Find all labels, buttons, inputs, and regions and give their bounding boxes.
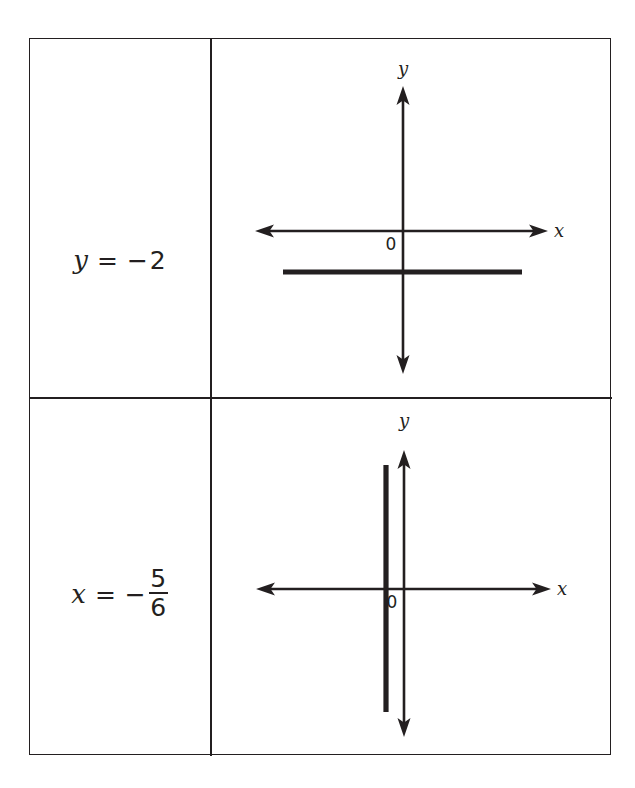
equation-equals-row-1: =: [97, 248, 118, 273]
y-axis-row-2: [398, 450, 411, 737]
y-axis-label-row-2: y: [398, 410, 410, 431]
y-axis-label-row-1: y: [397, 58, 409, 79]
coordinate-plane-row-1: y x 0: [210, 38, 611, 396]
coordinate-plane-row-2: y x 0: [210, 397, 611, 755]
graph-cell-row-1: y x 0: [210, 38, 611, 396]
x-axis-label-row-2: x: [557, 578, 567, 599]
x-axis-row-1: [255, 225, 548, 238]
equation-cell-row-2: x = − 5 6: [29, 397, 210, 755]
fraction-row-2: 5 6: [149, 566, 168, 620]
equation-equals-row-2: =: [95, 582, 116, 607]
equation-row-1: y = − 2: [29, 247, 210, 273]
equation-minus-row-2: −: [125, 582, 146, 607]
equation-variable-row-1: y: [73, 247, 88, 273]
equation-row-2: x = − 5 6: [29, 567, 210, 621]
graph-cell-row-2: y x 0: [210, 397, 611, 755]
origin-label-row-1: 0: [386, 234, 397, 254]
fraction-numerator-row-2: 5: [149, 566, 167, 592]
equation-value-row-1: 2: [150, 248, 166, 273]
fraction-denominator-row-2: 6: [149, 594, 167, 620]
equation-variable-row-2: x: [71, 581, 86, 607]
equation-minus-row-1: −: [127, 248, 148, 273]
x-axis-label-row-1: x: [554, 220, 564, 241]
equation-cell-row-1: y = − 2: [29, 38, 210, 396]
figure-page: y = − 2 y x: [0, 0, 635, 788]
